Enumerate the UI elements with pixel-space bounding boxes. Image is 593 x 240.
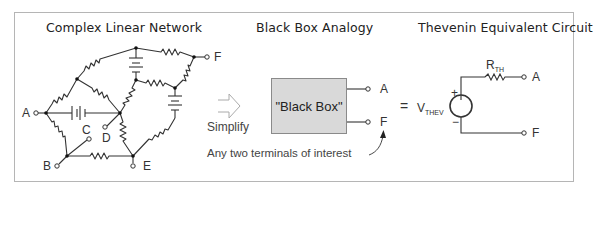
thevenin-resistance-main: R	[486, 58, 495, 72]
thevenin-voltage-label: VTHEV	[417, 101, 444, 116]
node-label-f: F	[214, 50, 221, 64]
thevenin-voltage-main: V	[417, 101, 425, 115]
equals-sign: =	[400, 98, 408, 114]
terminal-b	[55, 164, 59, 168]
simplify-label: Simplify	[207, 120, 249, 134]
thevenin-resistance-label: RTH	[486, 58, 504, 73]
terminal-f	[205, 55, 209, 59]
node-label-b: B	[43, 159, 51, 173]
node-label-d: D	[102, 131, 111, 145]
node-label-e: E	[143, 159, 151, 173]
minus-sign: −	[452, 115, 459, 129]
thevenin-terminal-a: A	[532, 70, 540, 84]
thevenin-terminal-f: F	[532, 126, 539, 140]
black-box-terminal-a: A	[380, 82, 388, 96]
terminal-d	[103, 125, 107, 129]
black-box: "Black Box"	[271, 78, 347, 134]
terminal-e	[131, 164, 135, 168]
terminals-annotation: Any two terminals of interest	[207, 147, 351, 159]
simplify-arrow-icon	[218, 94, 240, 118]
terminal-c	[87, 137, 91, 141]
thevenin-voltage-sub: THEV	[425, 109, 444, 116]
plus-sign: +	[451, 86, 458, 100]
node-label-a: A	[22, 106, 30, 120]
black-box-label: "Black Box"	[275, 99, 342, 114]
black-box-terminal-f: F	[380, 115, 387, 129]
annotation-arrow-icon	[380, 130, 386, 138]
terminal-a	[34, 111, 38, 115]
node-label-c: C	[82, 123, 91, 137]
thevenin-resistance-sub: TH	[495, 66, 504, 73]
